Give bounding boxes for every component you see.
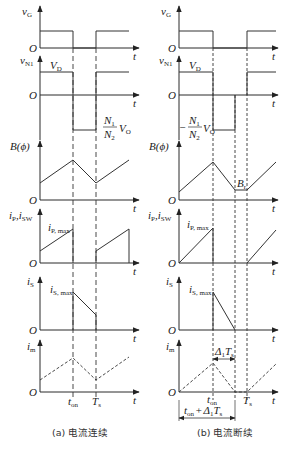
ip-waveform-2 bbox=[96, 229, 129, 263]
vg-plot-a: vG O t bbox=[22, 5, 139, 62]
origin-label: O bbox=[168, 42, 176, 54]
ismax-label: iS, max bbox=[50, 283, 73, 297]
ip-plot-a: iP,iSW iP, max O t bbox=[9, 209, 139, 277]
vo-label: VO bbox=[119, 122, 131, 136]
is-plot-b: iS iS, max O t bbox=[166, 275, 278, 344]
ton-label: ton bbox=[68, 395, 79, 409]
origin-label: O bbox=[168, 257, 176, 269]
n1-label: N1 bbox=[188, 114, 200, 128]
t-label: t bbox=[272, 202, 276, 214]
origin-label: O bbox=[29, 194, 37, 206]
minus-sign: − bbox=[179, 121, 186, 133]
n2-label: N2 bbox=[103, 128, 115, 142]
vn1-waveform bbox=[40, 72, 129, 130]
panel-b: vG O t vN1 VD O t − N1 N2 VO B(ϕ) Br bbox=[148, 5, 278, 438]
is-waveform bbox=[213, 292, 235, 330]
origin-label: O bbox=[168, 89, 176, 101]
br-label: Br bbox=[237, 177, 247, 191]
origin-label: O bbox=[29, 42, 37, 54]
vn1-label: vN1 bbox=[159, 54, 173, 68]
n2-label: N2 bbox=[188, 128, 200, 142]
im-waveform bbox=[179, 363, 276, 392]
t-label: t bbox=[272, 332, 276, 344]
vd-label: VD bbox=[50, 59, 62, 73]
origin-label: O bbox=[168, 324, 176, 336]
ton-plus-delta-label: ton+Δ1Ts bbox=[184, 404, 223, 418]
b-label: B(ϕ) bbox=[10, 140, 30, 153]
ipmax-label: iP, max bbox=[48, 221, 70, 235]
n1-label: N1 bbox=[103, 114, 115, 128]
vg-label: vG bbox=[161, 5, 171, 19]
t-label: t bbox=[272, 97, 276, 109]
b-waveform bbox=[40, 160, 129, 183]
vg-waveform bbox=[40, 31, 129, 48]
im-plot-b: im Δ1Ts O t ton Ts ton+Δ1Ts bbox=[166, 340, 278, 421]
origin-label: O bbox=[168, 386, 176, 398]
is-plot-a: iS iS, max O t bbox=[27, 275, 139, 344]
is-waveform bbox=[73, 292, 96, 330]
t-label: t bbox=[133, 332, 137, 344]
b-plot-b: B(ϕ) Br O t bbox=[149, 140, 278, 214]
b-waveform bbox=[179, 162, 276, 192]
vn1-waveform-2 bbox=[247, 72, 276, 95]
ip-isw-label: iP,iSW bbox=[9, 209, 33, 223]
vn1-plot-b: vN1 VD O t − N1 N2 VO bbox=[159, 54, 278, 142]
b-label: B(ϕ) bbox=[149, 140, 169, 153]
delta-ts-label: Δ1Ts bbox=[214, 345, 234, 359]
t-label: t bbox=[272, 265, 276, 277]
ip-waveform-1 bbox=[179, 228, 213, 263]
t-label: t bbox=[133, 202, 137, 214]
origin-label: O bbox=[29, 324, 37, 336]
origin-label: O bbox=[29, 89, 37, 101]
is-label: iS bbox=[166, 275, 173, 289]
caption-a: (a) 电流连续 bbox=[52, 427, 108, 438]
im-waveform bbox=[40, 357, 129, 380]
ts-label: Ts bbox=[243, 394, 252, 408]
vn1-plot-a: vN1 VD O t N1 N2 VO bbox=[20, 54, 139, 142]
origin-label: O bbox=[29, 257, 37, 269]
ipmax-label: iP, max bbox=[187, 218, 209, 232]
t-label: t bbox=[133, 97, 137, 109]
caption-b: (b) 电流断续 bbox=[197, 427, 253, 438]
im-plot-a: im O t ton Ts bbox=[27, 340, 139, 409]
ip-isw-label: iP,iSW bbox=[148, 209, 172, 223]
ismax-label: iS, max bbox=[189, 283, 212, 297]
panel-a: vG O t vN1 VD O t N1 N2 VO B(ϕ) O t bbox=[9, 5, 139, 438]
t-label: t bbox=[272, 50, 276, 62]
t-label: t bbox=[133, 50, 137, 62]
vg-plot-b: vG O t bbox=[161, 5, 278, 62]
im-label: im bbox=[27, 340, 36, 354]
im-label: im bbox=[166, 340, 175, 354]
is-label: iS bbox=[27, 275, 34, 289]
origin-label: O bbox=[168, 194, 176, 206]
flyback-waveform-diagram: vG O t vN1 VD O t N1 N2 VO B(ϕ) O t bbox=[0, 0, 295, 449]
vn1-label: vN1 bbox=[20, 54, 34, 68]
t-label: t bbox=[133, 394, 137, 406]
vg-waveform bbox=[179, 31, 276, 48]
ts-label: Ts bbox=[92, 395, 101, 409]
origin-label: O bbox=[29, 386, 37, 398]
ip-waveform-2 bbox=[247, 230, 276, 263]
t-label: t bbox=[133, 265, 137, 277]
vg-label: vG bbox=[22, 5, 32, 19]
vd-label: VD bbox=[189, 59, 201, 73]
t-label: t bbox=[272, 394, 276, 406]
b-plot-a: B(ϕ) O t bbox=[10, 140, 139, 214]
